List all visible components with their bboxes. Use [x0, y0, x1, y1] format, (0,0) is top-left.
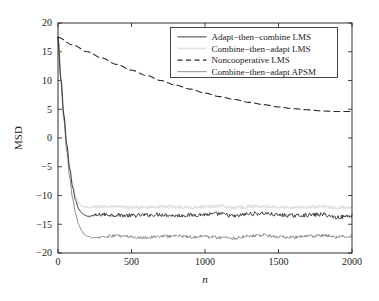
x-axis-label: n [202, 273, 208, 285]
y-tick-label: 5 [47, 104, 52, 115]
msd-convergence-chart: 20151050−5−10−15−20 0500100015002000 MSD… [0, 0, 379, 301]
figure-container: 20151050−5−10−15−20 0500100015002000 MSD… [0, 0, 379, 301]
x-tick-label: 500 [124, 256, 139, 267]
x-tick-label: 0 [56, 256, 61, 267]
legend-item-label: Combine−then−adapt APSM [212, 67, 316, 77]
y-tick-label: 15 [42, 46, 52, 57]
y-tick-label: −5 [41, 161, 52, 172]
y-tick-label: −10 [36, 190, 52, 201]
y-tick-label: −15 [36, 219, 52, 230]
y-tick-label: −20 [36, 247, 52, 258]
legend-item-label: Noncooperative LMS [212, 55, 290, 65]
x-tick-label: 2000 [342, 256, 362, 267]
legend-item-label: Combine−then−adapt LMS [212, 44, 311, 54]
chart-legend: Adapt−then−combine LMSCombine−then−adapt… [171, 28, 338, 78]
y-tick-label: 0 [47, 132, 52, 143]
y-tick-label: 20 [42, 17, 52, 28]
y-axis-label: MSD [12, 126, 24, 150]
legend-item-label: Adapt−then−combine LMS [212, 32, 311, 42]
x-tick-label: 1000 [195, 256, 215, 267]
y-tick-label: 10 [42, 75, 52, 86]
x-tick-label: 1500 [269, 256, 289, 267]
